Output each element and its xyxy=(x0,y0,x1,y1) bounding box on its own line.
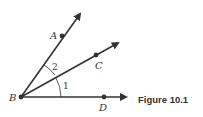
label-a: A xyxy=(49,30,57,41)
label-b: B xyxy=(8,92,16,103)
point-c xyxy=(94,53,99,58)
ray-bc xyxy=(21,43,118,97)
angle-arc-1 xyxy=(56,78,61,97)
point-b xyxy=(19,95,24,100)
point-a xyxy=(60,34,65,39)
angle-label-2: 2 xyxy=(52,62,58,72)
figure-caption: Figure 10.1 xyxy=(138,94,188,105)
angle-label-1: 1 xyxy=(63,81,69,91)
point-d xyxy=(102,95,107,100)
label-c: C xyxy=(95,60,103,71)
label-d: D xyxy=(98,102,107,113)
ray-ba xyxy=(21,14,80,97)
